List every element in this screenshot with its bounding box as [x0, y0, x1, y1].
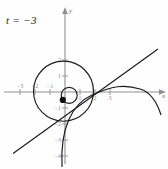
large-circle-curve [34, 61, 94, 121]
x-tick-label: 1 [79, 95, 82, 101]
y-tick-label: −1 [55, 105, 61, 111]
x-axis-label: x [161, 92, 166, 100]
y-tick-labels: 2 1 −1 −2 −3 −4 [55, 57, 61, 159]
x-tick-label: 2 [94, 95, 97, 101]
x-tick-label: −1 [47, 83, 53, 89]
parameter-label: t = −3 [6, 14, 37, 26]
x-tick-label: 3 [109, 95, 112, 101]
x-tick-label: −2 [32, 83, 38, 89]
x-tick-label: −3 [17, 83, 23, 89]
axis-group [4, 10, 163, 164]
y-tick-label: −4 [55, 153, 61, 159]
y-tick-label: 1 [58, 73, 61, 79]
y-axis-label: y [68, 7, 73, 15]
y-axis-arrow [62, 7, 68, 14]
graph-figure: t = −3 y x [0, 0, 168, 169]
marked-point [60, 97, 66, 103]
y-tick-label: −3 [55, 137, 61, 143]
